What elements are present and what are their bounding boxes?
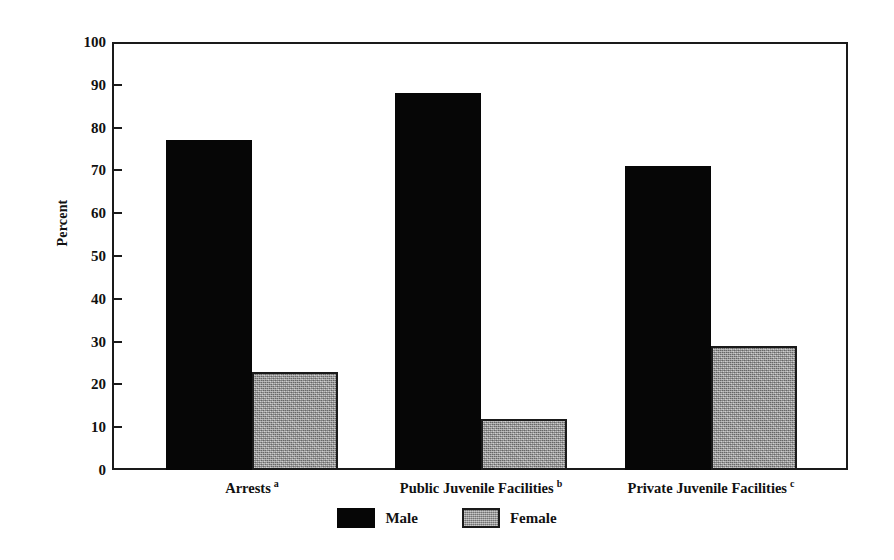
bar-chart-figure: Percent 0102030405060708090100 ArrestsaP… [0,0,894,560]
bar-female-1 [481,419,567,470]
x-axis-label-footnote: b [557,478,563,489]
legend-item-female: Female [462,508,557,528]
legend-item-male: Male [337,508,417,528]
bar-male-2 [625,166,711,470]
x-axis-label-1: Public Juvenile Facilitiesb [400,478,562,497]
x-axis-label-text: Private Juvenile Facilities [628,480,787,496]
x-axis-label-text: Arrests [225,480,271,496]
x-axis-label-2: Private Juvenile Facilitiesc [628,478,795,497]
legend-swatch-female [462,508,500,528]
bar-female-0 [252,372,338,470]
chart-legend: MaleFemale [0,508,894,528]
legend-swatch-male [337,508,375,528]
legend-label: Female [510,510,557,527]
x-axis-label-footnote: a [274,478,279,489]
x-axis-label-footnote: c [790,478,794,489]
bar-male-1 [395,93,481,470]
legend-label: Male [385,510,417,527]
bars-layer [0,0,894,560]
x-axis-label-text: Public Juvenile Facilities [400,480,554,496]
bar-male-0 [166,140,252,470]
bar-female-2 [711,346,797,470]
x-axis-label-0: Arrestsa [225,478,279,497]
